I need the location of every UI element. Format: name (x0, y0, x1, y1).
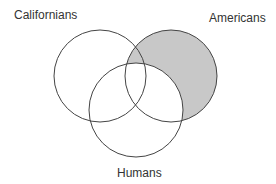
californians-label: Californians (14, 8, 77, 22)
venn-diagram (0, 0, 276, 184)
humans-label: Humans (117, 166, 162, 180)
americans-label: Americans (209, 11, 266, 25)
